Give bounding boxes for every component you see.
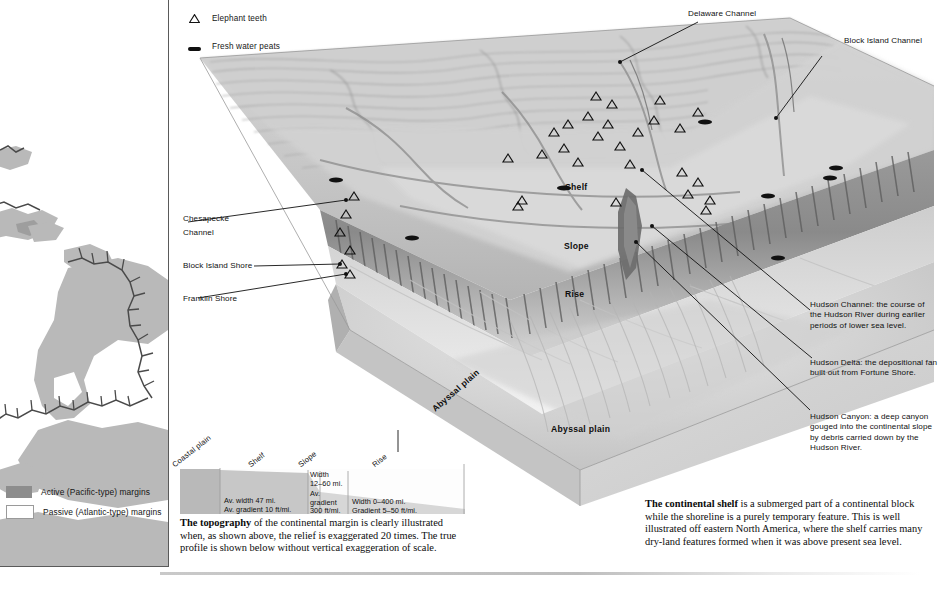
- world-map-panel: Active (Pacific-type) margins Passive (A…: [0, 0, 169, 567]
- profile-slope-width-line2: 12–60 mi.: [310, 479, 343, 488]
- terrain-label-rise: Rise: [565, 289, 584, 299]
- profile-slope-gradient-line3: 300 ft/mi.: [310, 506, 341, 515]
- footer-rule: [160, 572, 920, 575]
- profile-rise-gradient: Gradient 5–50 ft/mi.: [352, 506, 417, 515]
- world-map-svg: [0, 0, 168, 566]
- callout-chesapeake-channel-line2: Channel: [183, 228, 214, 238]
- caption-topography-lead: The topography: [180, 517, 251, 528]
- callout-chesapeake-channel-line1: Chesapecke: [183, 214, 229, 224]
- profile-shelf-gradient: Av. gradient 10 ft/mi.: [224, 505, 291, 514]
- callout-franklin-shore: Franklin Shore: [183, 294, 237, 304]
- callout-hudson-delta: Hudson Delta: the depositional fan built…: [810, 358, 938, 379]
- profile-rise-width: Width 0–400 mi.: [352, 497, 405, 506]
- callout-hudson-channel: Hudson Channel: the course of the Hudson…: [810, 300, 938, 331]
- active-margin-label: Active (Pacific-type) margins: [41, 487, 150, 497]
- callout-delaware-channel: Delaware Channel: [688, 9, 756, 19]
- profile-diagram: Coastal plain Shelf Slope Rise Av. width…: [180, 462, 465, 514]
- passive-margin-label: Passive (Atlantic-type) margins: [43, 507, 162, 517]
- profile-shelf-width: Av. width 47 mi.: [224, 496, 276, 505]
- world-map-legend: Active (Pacific-type) margins Passive (A…: [6, 486, 156, 526]
- active-margin-swatch: [6, 486, 32, 498]
- callout-hudson-canyon: Hudson Canyon: a deep canyon gouged into…: [810, 412, 938, 454]
- terrain-label-slope: Slope: [564, 241, 589, 251]
- profile-slope-gradient-line1: Av.: [310, 489, 320, 498]
- profile-slope-width-line1: Width: [310, 470, 329, 479]
- caption-shelf-lead: The continental shelf: [645, 498, 738, 509]
- callout-block-island-channel: Block Island Channel: [844, 36, 922, 46]
- callout-block-island-shore: Block Island Shore: [183, 261, 252, 271]
- terrain-label-abyssal-plain: Abyssal plain: [551, 424, 610, 434]
- legend-row-active: Active (Pacific-type) margins: [6, 486, 156, 498]
- caption-topography: The topography of the continental margin…: [180, 517, 470, 555]
- caption-continental-shelf: The continental shelf is a submerged par…: [645, 498, 933, 548]
- passive-margin-swatch: [6, 505, 34, 519]
- terrain-label-shelf: Shelf: [565, 182, 588, 192]
- legend-row-passive: Passive (Atlantic-type) margins: [6, 505, 156, 519]
